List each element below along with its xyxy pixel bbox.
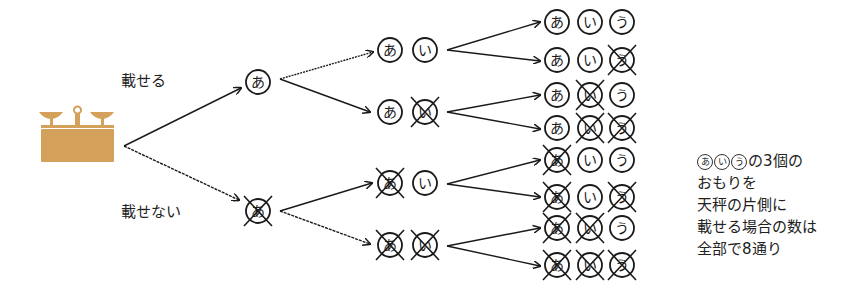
- cross-out-mark: [411, 230, 439, 260]
- note-line-5: 全部で8通り: [697, 238, 817, 260]
- cross-out-mark: [543, 213, 571, 243]
- level3-row2-weight-1-placed: あ: [545, 48, 569, 72]
- mini-weight-u: う: [731, 154, 747, 170]
- note-line-2: おもりを: [697, 172, 817, 194]
- level3-row8-weight-3-not-placed: う: [608, 250, 636, 280]
- mini-weight-a: あ: [697, 154, 713, 170]
- level3-row3-weight-3-placed: う: [610, 83, 634, 107]
- svg-text:う: う: [615, 87, 629, 103]
- level3-row4-weight-3-not-placed: う: [608, 113, 636, 143]
- level3-row1-weight-1-placed: あ: [545, 10, 569, 34]
- cross-out-mark: [576, 213, 604, 243]
- cross-out-mark: [608, 250, 636, 280]
- level2-row4-weight-2-not-placed: い: [411, 230, 439, 260]
- place-label: 載せる: [121, 69, 166, 90]
- level3-row8-weight-2-not-placed: い: [576, 250, 604, 280]
- svg-text:あ: あ: [383, 42, 397, 58]
- cross-out-mark: [608, 113, 636, 143]
- cross-out-mark: [543, 145, 571, 175]
- level2-row2-weight-2-not-placed: い: [411, 97, 439, 127]
- cross-out-mark: [376, 230, 404, 260]
- level3-row2-weight-3-not-placed: う: [608, 45, 636, 75]
- svg-text:い: い: [583, 52, 597, 68]
- level3-row7-weight-1-not-placed: あ: [543, 213, 571, 243]
- cross-out-mark: [576, 113, 604, 143]
- branch-lines: [124, 22, 540, 266]
- level2-row1-weight-2-placed: い: [413, 38, 437, 62]
- svg-text:い: い: [583, 152, 597, 168]
- level2-row3-weight-1-not-placed: あ: [376, 168, 404, 198]
- svg-text:あ: あ: [251, 74, 265, 90]
- svg-text:い: い: [583, 189, 597, 205]
- level3-row3-weight-2-not-placed: い: [576, 80, 604, 110]
- level3-row2-weight-2-placed: い: [578, 48, 602, 72]
- cross-out-mark: [411, 97, 439, 127]
- mini-weight-i: い: [714, 154, 730, 170]
- level3-row7-weight-2-not-placed: い: [576, 213, 604, 243]
- cross-out-mark: [543, 250, 571, 280]
- cross-out-mark: [543, 182, 571, 212]
- cross-out-mark: [576, 80, 604, 110]
- cross-out-mark: [244, 196, 272, 226]
- svg-text:あ: あ: [550, 120, 564, 136]
- balance-scale-icon: [39, 107, 114, 163]
- note-line-3: 天秤の片側に: [697, 194, 817, 216]
- svg-text:あ: あ: [383, 104, 397, 120]
- cross-out-mark: [608, 45, 636, 75]
- level3-row8-weight-1-not-placed: あ: [543, 250, 571, 280]
- cross-out-mark: [376, 168, 404, 198]
- weights-tree-diagram: あああいあいあいあいあいうあいうあいうあいうあいうあいうあいうあいう 載せる 載…: [0, 0, 866, 297]
- svg-text:い: い: [418, 42, 432, 58]
- svg-text:い: い: [583, 14, 597, 30]
- cross-out-mark: [576, 250, 604, 280]
- level3-row6-weight-1-not-placed: あ: [543, 182, 571, 212]
- note-line-1: あいうの3個の: [697, 150, 817, 172]
- svg-text:う: う: [615, 220, 629, 236]
- summary-note: あいうの3個の おもりを 天秤の片側に 載せる場合の数は 全部で8通り: [697, 150, 817, 260]
- level3-row3-weight-1-placed: あ: [545, 83, 569, 107]
- svg-text:う: う: [615, 14, 629, 30]
- level1-row2-weight-1-not-placed: あ: [244, 196, 272, 226]
- level2-row3-weight-2-placed: い: [413, 171, 437, 195]
- note-line-4: 載せる場合の数は: [697, 216, 817, 238]
- weight-nodes: あああいあいあいあいあいうあいうあいうあいうあいうあいうあいうあいう: [244, 10, 636, 280]
- svg-text:あ: あ: [550, 14, 564, 30]
- level3-row1-weight-3-placed: う: [610, 10, 634, 34]
- level3-row5-weight-1-not-placed: あ: [543, 145, 571, 175]
- level2-row4-weight-1-not-placed: あ: [376, 230, 404, 260]
- not-place-label: 載せない: [121, 200, 181, 221]
- level2-row2-weight-1-placed: あ: [378, 100, 402, 124]
- svg-text:い: い: [418, 175, 432, 191]
- level1-row1-weight-1-placed: あ: [246, 70, 270, 94]
- level3-row1-weight-2-placed: い: [578, 10, 602, 34]
- level3-row7-weight-3-placed: う: [610, 216, 634, 240]
- level3-row5-weight-2-placed: い: [578, 148, 602, 172]
- level3-row6-weight-2-placed: い: [578, 185, 602, 209]
- note-line-1-text: の3個の: [748, 152, 803, 170]
- level2-row1-weight-1-placed: あ: [378, 38, 402, 62]
- level3-row5-weight-3-placed: う: [610, 148, 634, 172]
- svg-text:あ: あ: [550, 52, 564, 68]
- svg-text:あ: あ: [550, 87, 564, 103]
- level3-row4-weight-1-placed: あ: [545, 116, 569, 140]
- svg-text:う: う: [615, 152, 629, 168]
- level3-row6-weight-3-not-placed: う: [608, 182, 636, 212]
- level3-row4-weight-2-not-placed: い: [576, 113, 604, 143]
- cross-out-mark: [608, 182, 636, 212]
